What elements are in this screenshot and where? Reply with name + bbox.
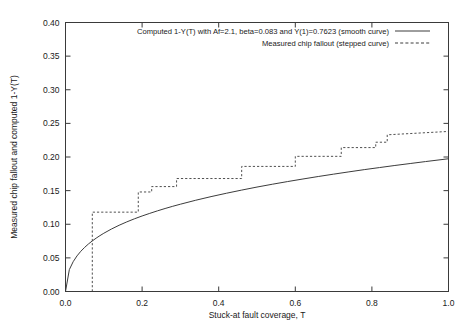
series-measured-stepped-curve (92, 131, 448, 291)
plot-canvas: 0.00.20.40.60.81.0 0.000.050.100.150.200… (0, 0, 461, 329)
y-tick-label: 0.35 (43, 51, 60, 61)
y-tick-label: 0.30 (43, 85, 60, 95)
legend: Computed 1-Y(T) with Af=2.1, beta=0.083 … (137, 27, 430, 48)
y-tick-label: 0.00 (43, 287, 60, 297)
chart-figure: 0.00.20.40.60.81.0 0.000.050.100.150.200… (0, 0, 461, 329)
y-axis-ticks (66, 23, 449, 292)
series-computed-smooth-curve (66, 159, 449, 292)
data-series-group (66, 131, 449, 291)
y-tick-label: 0.05 (43, 253, 60, 263)
x-tick-label: 0.2 (136, 298, 148, 308)
y-axis-tick-labels: 0.000.050.100.150.200.250.300.350.40 (43, 18, 60, 297)
y-tick-label: 0.15 (43, 186, 60, 196)
x-tick-label: 1.0 (443, 298, 455, 308)
legend-entry-label-1: Measured chip fallout (stepped curve) (262, 39, 390, 48)
x-tick-label: 0.8 (366, 298, 378, 308)
legend-entry-label-0: Computed 1-Y(T) with Af=2.1, beta=0.083 … (137, 27, 390, 36)
x-axis-tick-labels: 0.00.20.40.60.81.0 (60, 298, 455, 308)
plot-frame (66, 23, 449, 292)
y-tick-label: 0.10 (43, 219, 60, 229)
y-tick-label: 0.25 (43, 118, 60, 128)
axis-frame (66, 23, 449, 292)
y-tick-label: 0.40 (43, 18, 60, 28)
x-axis-title: Stuck-at fault coverage, T (209, 310, 306, 320)
x-tick-label: 0.4 (213, 298, 225, 308)
x-axis-ticks (66, 23, 449, 292)
x-tick-label: 0.6 (289, 298, 301, 308)
y-axis-title: Measured chip fallout and computed 1-Y(T… (9, 75, 19, 239)
y-tick-label: 0.20 (43, 152, 60, 162)
x-tick-label: 0.0 (60, 298, 72, 308)
